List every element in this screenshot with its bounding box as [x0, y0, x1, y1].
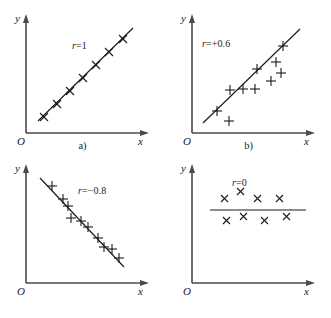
panel-c: y x O r=−0.8 c)	[0, 155, 165, 314]
data-point	[237, 188, 244, 195]
data-point	[40, 113, 48, 121]
data-point	[271, 57, 281, 67]
panel-b: y x O r=+0.6 b)	[166, 0, 331, 159]
data-point	[283, 213, 290, 220]
data-point	[276, 195, 283, 202]
data-point	[223, 217, 230, 224]
r-value-a: 1	[82, 40, 87, 51]
y-axis-label: y	[180, 162, 186, 174]
correlation-label-b: r=+0.6	[202, 38, 230, 49]
axes-group-d	[189, 164, 315, 286]
data-point	[224, 116, 234, 126]
r-value-d: 0	[242, 177, 247, 188]
data-point	[238, 84, 248, 94]
panel-caption-b: b)	[166, 140, 331, 151]
data-point	[99, 242, 109, 252]
correlation-label-a: r=1	[72, 40, 87, 51]
y-axis-label: y	[14, 12, 20, 24]
data-point	[66, 87, 74, 95]
data-point	[212, 106, 222, 116]
figure-root: y x O r=1 a)	[0, 0, 331, 318]
y-axis-arrow-icon	[23, 14, 29, 23]
correlation-label-c: r=−0.8	[78, 185, 106, 196]
data-point	[261, 217, 268, 224]
panel-d-plot: y x O	[166, 155, 331, 318]
y-axis-arrow-icon	[189, 14, 195, 23]
data-point	[119, 35, 127, 43]
data-point	[105, 48, 113, 56]
data-point	[252, 64, 262, 74]
data-point	[276, 68, 286, 78]
data-point	[221, 195, 228, 202]
panel-d: y x O r=0 d)	[166, 155, 331, 314]
data-point	[63, 201, 73, 211]
y-axis-arrow-icon	[23, 164, 29, 173]
y-axis-label: y	[14, 162, 20, 174]
data-point	[79, 74, 87, 82]
data-point	[250, 84, 260, 94]
panel-a: y x O r=1 a)	[0, 0, 165, 159]
data-point	[53, 100, 61, 108]
data-point	[92, 61, 100, 69]
r-value-b: +0.6	[212, 38, 231, 49]
data-point	[254, 195, 261, 202]
y-axis-arrow-icon	[189, 164, 195, 173]
data-point	[107, 244, 117, 254]
origin-label: O	[17, 285, 25, 297]
data-point	[83, 222, 93, 232]
data-point	[266, 76, 276, 86]
x-axis-label: x	[303, 285, 309, 297]
r-value-c: −0.8	[88, 185, 107, 196]
data-point	[47, 181, 57, 191]
correlation-label-d: r=0	[232, 177, 247, 188]
panel-caption-a: a)	[0, 140, 165, 151]
x-axis-label: x	[137, 285, 143, 297]
panel-c-plot: y x O	[0, 155, 165, 318]
markers-b	[212, 41, 288, 126]
panel-b-plot: y x O	[166, 0, 331, 159]
data-point	[93, 233, 103, 243]
axes-group-c	[23, 164, 149, 286]
data-point	[114, 253, 124, 263]
data-point	[240, 213, 247, 220]
y-axis-label: y	[180, 12, 186, 24]
markers-d	[221, 188, 290, 224]
data-point	[58, 194, 68, 204]
origin-label: O	[183, 285, 191, 297]
panel-a-plot: y x O	[0, 0, 165, 159]
